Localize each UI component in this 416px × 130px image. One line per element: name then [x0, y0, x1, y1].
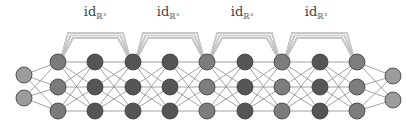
skip-label-3: idℝ³: [212, 4, 272, 21]
skip-label-4: idℝ³: [286, 4, 346, 21]
skip-label-2: idℝ³: [138, 4, 198, 21]
hidden-node: [237, 79, 253, 95]
hidden-node: [50, 79, 66, 95]
skip-label-sub: ℝ³: [317, 12, 327, 21]
hidden-node: [199, 79, 215, 95]
skip-label-sub: ℝ³: [243, 12, 253, 21]
network-diagram: [0, 0, 416, 130]
hidden-node: [349, 103, 365, 119]
output-node: [385, 92, 401, 108]
hidden-node: [312, 103, 328, 119]
hidden-node: [199, 54, 215, 70]
hidden-node: [87, 103, 103, 119]
hidden-node: [50, 103, 66, 119]
input-node: [16, 67, 32, 83]
hidden-node: [125, 54, 141, 70]
hidden-node: [162, 79, 178, 95]
output-node: [385, 68, 401, 84]
skip-label-sub: ℝ³: [96, 12, 106, 21]
hidden-node: [274, 79, 290, 95]
hidden-node: [87, 79, 103, 95]
nodes-layer: [16, 54, 401, 119]
skip-label-main: id: [305, 4, 317, 19]
skip-label-main: id: [231, 4, 243, 19]
skip-label-main: id: [157, 4, 169, 19]
hidden-node: [349, 54, 365, 70]
hidden-node: [237, 103, 253, 119]
hidden-node: [125, 103, 141, 119]
input-node: [16, 90, 32, 106]
hidden-node: [312, 54, 328, 70]
hidden-node: [162, 54, 178, 70]
hidden-node: [162, 103, 178, 119]
skip-label-sub: ℝ³: [169, 12, 179, 21]
hidden-node: [87, 54, 103, 70]
hidden-node: [50, 54, 66, 70]
hidden-node: [349, 79, 365, 95]
hidden-node: [312, 79, 328, 95]
hidden-node: [274, 54, 290, 70]
skip-label-1: idℝ³: [65, 4, 125, 21]
hidden-node: [199, 103, 215, 119]
hidden-node: [237, 54, 253, 70]
hidden-node: [274, 103, 290, 119]
skip-label-main: id: [84, 4, 96, 19]
hidden-node: [125, 79, 141, 95]
